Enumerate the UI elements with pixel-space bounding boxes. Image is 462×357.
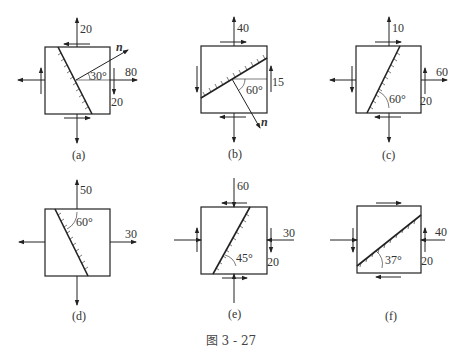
- angle-arc: [378, 91, 389, 108]
- caption-b: (b): [228, 147, 242, 161]
- panel-d: [19, 180, 136, 305]
- caption-e: (e): [228, 307, 241, 321]
- label-c-top: 10: [392, 21, 404, 35]
- label-e-shear: 20: [267, 255, 279, 269]
- label-e-top: 60: [237, 179, 249, 193]
- label-c-angle: 60°: [389, 92, 406, 106]
- angle-arc: [376, 251, 383, 268]
- caption-f: (f): [385, 309, 397, 323]
- label-b-normal: n: [261, 115, 268, 129]
- label-e-right: 30: [283, 226, 295, 240]
- label-f-right: 40: [435, 225, 447, 239]
- label-d-right: 30: [125, 227, 137, 241]
- label-a-top: 20: [80, 22, 92, 36]
- angle-arc: [225, 255, 236, 266]
- panel-a: [18, 18, 137, 143]
- label-b-top: 40: [237, 21, 249, 35]
- label-d-top: 50: [80, 183, 92, 197]
- element-square: [201, 46, 267, 113]
- panel-c: [330, 17, 447, 142]
- figure-caption: 图 3 - 27: [0, 331, 462, 348]
- label-b-shear: 15: [272, 75, 284, 89]
- caption-d: (d): [72, 309, 86, 323]
- inclined-plane: [58, 47, 92, 114]
- element-square: [201, 207, 267, 274]
- label-e-angle: 45°: [236, 251, 253, 265]
- caption-c: (c): [382, 148, 395, 162]
- panel-e: [174, 178, 294, 303]
- label-c-shear: 20: [420, 94, 432, 108]
- hatch-marks: [58, 53, 88, 109]
- angle-arc: [239, 79, 245, 90]
- stress-element-diagrams: 20 80 20 30° n (a) 40 15 60° n (b): [0, 0, 462, 357]
- label-a-shear: 20: [111, 95, 123, 109]
- panel-b: [197, 17, 271, 142]
- label-a-right: 80: [125, 65, 137, 79]
- caption-a: (a): [72, 148, 85, 162]
- label-f-shear: 20: [421, 254, 433, 268]
- label-d-angle: 60°: [76, 215, 93, 229]
- label-a-normal: n: [116, 40, 123, 54]
- label-b-angle: 60°: [246, 83, 263, 97]
- label-f-angle: 37°: [385, 253, 402, 267]
- label-a-angle: 30°: [90, 69, 107, 83]
- label-c-right: 60: [436, 65, 448, 79]
